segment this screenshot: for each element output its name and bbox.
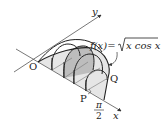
diagram-canvas: y x O P Q π 2 f(x)= x cos x: [0, 0, 167, 128]
x-end-numerator: π: [95, 100, 103, 110]
origin-label: O: [29, 61, 37, 72]
function-label-radicand: x cos x: [126, 40, 161, 51]
point-q-label: Q: [110, 73, 118, 84]
point-p-label: P: [80, 93, 87, 104]
x-end-denominator: 2: [96, 111, 102, 121]
function-label-lhs: f(x)=: [89, 40, 116, 51]
label-pointer-arrow: [109, 52, 117, 65]
y-axis-label: y: [91, 6, 98, 17]
x-axis-label: x: [113, 110, 119, 121]
